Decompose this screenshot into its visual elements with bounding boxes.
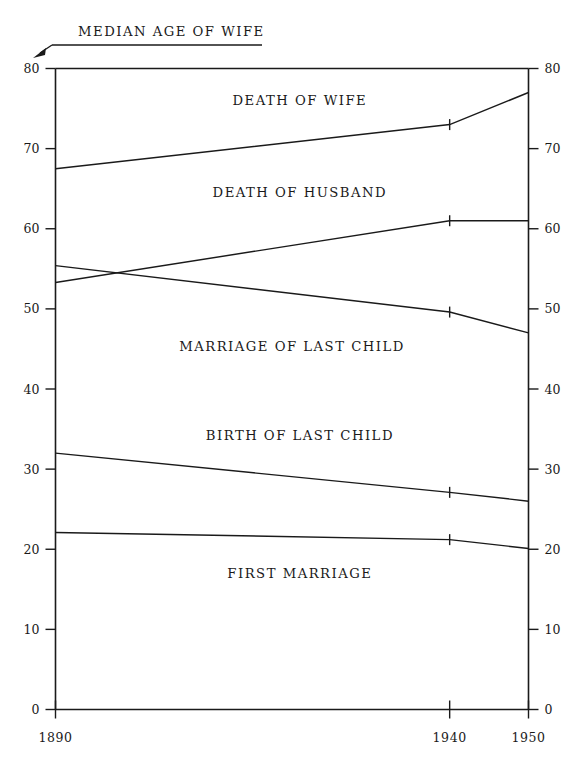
y-axis-right-ticks: 01020304050607080 (529, 61, 561, 717)
median-age-of-wife-line-chart: MEDIAN AGE OF WIFE 01020304050607080 010… (0, 0, 578, 769)
series-label: BIRTH OF LAST CHILD (206, 428, 394, 443)
y-tick-label-right: 60 (545, 221, 561, 236)
series-labels-group: DEATH OF WIFEDEATH OF HUSBANDMARRIAGE OF… (179, 93, 405, 582)
chart-title-group: MEDIAN AGE OF WIFE (33, 24, 265, 58)
y-tick-label-left: 80 (24, 61, 40, 76)
y-tick-label-left: 70 (24, 141, 40, 156)
y-tick-label-right: 30 (545, 462, 561, 477)
y-tick-label-left: 40 (24, 382, 40, 397)
series-line (56, 453, 529, 501)
y-tick-label-right: 40 (545, 382, 561, 397)
x-tick-label: 1940 (433, 730, 467, 745)
x-axis-ticks: 189019401950 (38, 701, 545, 745)
y-tick-label-left: 50 (24, 301, 40, 316)
y-tick-label-left: 10 (24, 622, 40, 637)
axes-group (56, 69, 529, 710)
series-line (56, 221, 529, 283)
y-tick-label-left: 20 (24, 542, 40, 557)
series-label: MARRIAGE OF LAST CHILD (179, 339, 405, 354)
chart-title: MEDIAN AGE OF WIFE (78, 24, 265, 39)
y-tick-label-right: 0 (545, 702, 553, 717)
y-tick-label-right: 50 (545, 301, 561, 316)
series-lines-group (56, 93, 529, 549)
x-tick-label: 1950 (511, 730, 545, 745)
y-tick-label-left: 0 (32, 702, 40, 717)
y-tick-label-right: 70 (545, 141, 561, 156)
series-line (56, 266, 529, 333)
y-tick-label-right: 20 (545, 542, 561, 557)
y-tick-label-right: 80 (545, 61, 561, 76)
y-tick-label-right: 10 (545, 622, 561, 637)
y-tick-label-left: 30 (24, 462, 40, 477)
chart-container: MEDIAN AGE OF WIFE 01020304050607080 010… (0, 0, 578, 769)
series-line (56, 532, 529, 548)
y-tick-label-left: 60 (24, 221, 40, 236)
y-axis-left-ticks: 01020304050607080 (24, 61, 56, 717)
x-tick-label: 1890 (38, 730, 72, 745)
series-label: FIRST MARRIAGE (227, 566, 372, 581)
series-label: DEATH OF WIFE (233, 93, 368, 108)
series-label: DEATH OF HUSBAND (213, 185, 388, 200)
